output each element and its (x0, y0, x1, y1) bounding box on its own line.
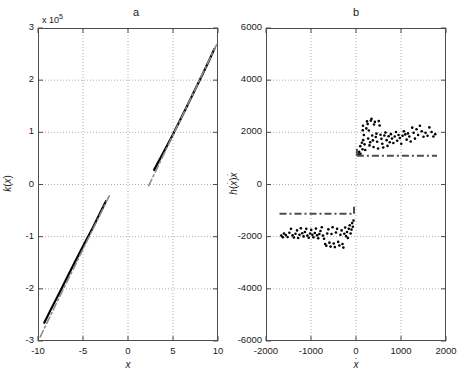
tick-label-x-b-4: 2000 (416, 345, 462, 356)
panel-b-scatter-1 (280, 219, 355, 249)
tick-label-y-b-0: 6000 (222, 21, 262, 32)
tick-label-y-b-1: 4000 (222, 73, 262, 84)
tick-label-y-b-5: -4000 (222, 282, 262, 293)
tick-label-y-a-4: -1 (0, 230, 34, 241)
tick-label-y-a-5: -2 (0, 282, 34, 293)
tick-label-y-a-6: -3 (0, 334, 34, 345)
figure-container: a x 105 b 3210-1-2-3-10-5051060004000200… (0, 0, 462, 390)
panel-b-scatter-0 (357, 117, 436, 155)
axis-label-y-b: h(x·)x· (228, 128, 239, 238)
axis-label-x-a: x (98, 359, 158, 370)
tick-label-y-a-2: 1 (0, 125, 34, 136)
tick-label-y-a-0: 3 (0, 21, 34, 32)
axis-label-y-a: k(x) (2, 138, 13, 228)
tick-label-y-b-6: -6000 (222, 334, 262, 345)
axis-label-x-b: x· (326, 359, 386, 370)
tick-label-y-a-1: 2 (0, 73, 34, 84)
